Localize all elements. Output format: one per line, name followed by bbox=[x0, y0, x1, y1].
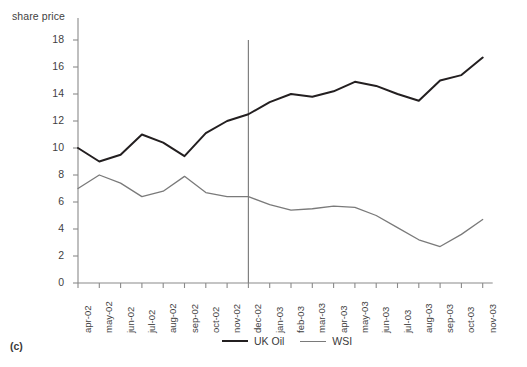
y-tick-label: 4 bbox=[36, 222, 64, 234]
x-tick-label: jan-03 bbox=[274, 307, 285, 333]
x-tick-label: mar-03 bbox=[316, 303, 327, 333]
x-tick-label: sep-03 bbox=[444, 304, 455, 333]
chart-figure: share price (c) 024681012141618 apr-02ma… bbox=[0, 0, 527, 367]
y-tick-label: 12 bbox=[36, 114, 64, 126]
x-tick-label: jul-03 bbox=[402, 310, 413, 333]
x-tick-label: oct-03 bbox=[465, 307, 476, 333]
y-tick-label: 18 bbox=[36, 33, 64, 45]
legend-label-wsi: WSI bbox=[332, 335, 352, 347]
x-tick-label: feb-03 bbox=[295, 306, 306, 333]
y-tick-label: 8 bbox=[36, 168, 64, 180]
x-tick-label: apr-03 bbox=[338, 306, 349, 333]
series-line-wsi bbox=[78, 175, 483, 247]
x-tick-label: may-02 bbox=[103, 301, 114, 333]
y-tick-label: 14 bbox=[36, 87, 64, 99]
x-tick-label: may-03 bbox=[359, 301, 370, 333]
y-tick-label: 2 bbox=[36, 249, 64, 261]
legend-line-icon-wsi bbox=[300, 341, 326, 342]
y-tick-label: 0 bbox=[36, 276, 64, 288]
x-tick-label: jun-02 bbox=[125, 307, 136, 333]
panel-label: (c) bbox=[10, 340, 23, 352]
y-axis-title: share price bbox=[12, 10, 65, 22]
y-tick-label: 16 bbox=[36, 60, 64, 72]
legend-line-icon-uk-oil bbox=[222, 340, 248, 342]
legend-item-wsi: WSI bbox=[300, 335, 352, 347]
x-tick-label: jul-02 bbox=[146, 310, 157, 333]
x-tick-label: dec-02 bbox=[252, 304, 263, 333]
x-tick-label: aug-03 bbox=[423, 303, 434, 333]
legend-label-uk-oil: UK Oil bbox=[254, 335, 284, 347]
y-tick-label: 10 bbox=[36, 141, 64, 153]
x-tick-label: aug-02 bbox=[167, 303, 178, 333]
chart-legend: UK Oil WSI bbox=[222, 335, 352, 347]
x-tick-label: sep-02 bbox=[189, 304, 200, 333]
x-tick-label: oct-02 bbox=[210, 307, 221, 333]
x-tick-label: nov-03 bbox=[487, 304, 498, 333]
x-tick-label: jun-03 bbox=[380, 307, 391, 333]
y-tick-label: 6 bbox=[36, 195, 64, 207]
x-tick-label: nov-02 bbox=[231, 304, 242, 333]
series-line-uk-oil bbox=[78, 58, 483, 162]
x-tick-label: apr-02 bbox=[82, 306, 93, 333]
legend-item-uk-oil: UK Oil bbox=[222, 335, 284, 347]
